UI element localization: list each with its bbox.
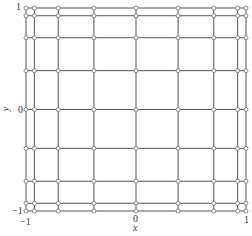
grid-node-marker [134,14,138,18]
grid-node-marker [244,6,248,10]
grid-node-marker [244,201,248,205]
grid-node-marker [236,6,240,10]
grid-node-marker [134,146,138,150]
grid-node-marker [24,14,28,18]
grid-node-marker [134,108,138,112]
grid-node-marker [176,179,180,183]
grid-node-marker [56,14,60,18]
grid-node-marker [24,146,28,150]
grid-node-marker [24,209,28,213]
grid-node-marker [244,146,248,150]
grid-node-marker [56,179,60,183]
grid-node-marker [244,36,248,40]
grid-node-marker [236,179,240,183]
grid-node-marker [212,6,216,10]
grid-node-marker [176,209,180,213]
grid-node-marker [212,146,216,150]
grid-node-marker [24,201,28,205]
grid-node-marker [92,209,96,213]
grid-node-marker [92,179,96,183]
grid-node-marker [32,209,36,213]
x-tick-label-right: 1 [244,215,249,225]
grid-node-marker [176,201,180,205]
y-tick-label-zero: 0 [18,105,23,115]
grid-node-marker [236,36,240,40]
grid-node-marker [176,69,180,73]
grid-node-marker [56,6,60,10]
grid-node-marker [24,108,28,112]
grid-node-marker [56,209,60,213]
x-tick-label-left: −1 [20,217,31,227]
grid-node-marker [212,201,216,205]
grid-node-marker [212,179,216,183]
grid-node-marker [212,209,216,213]
grid-node-marker [92,36,96,40]
grid-nodes [24,6,248,213]
grid-node-marker [176,108,180,112]
grid-node-marker [24,179,28,183]
grid-node-marker [92,108,96,112]
grid-node-marker [244,179,248,183]
grid-node-marker [236,69,240,73]
grid-node-marker [134,201,138,205]
grid-node-marker [32,201,36,205]
grid-node-marker [92,14,96,18]
grid-node-marker [212,108,216,112]
grid-node-marker [32,36,36,40]
grid-node-marker [24,6,28,10]
grid-node-marker [134,36,138,40]
grid-node-marker [56,108,60,112]
grid-node-marker [176,146,180,150]
grid-node-marker [176,36,180,40]
grid-node-marker [32,146,36,150]
grid-node-marker [244,14,248,18]
grid-node-marker [236,146,240,150]
grid-node-marker [56,69,60,73]
grid-plot [0,0,252,236]
x-axis-label: x [133,223,137,233]
grid-node-marker [134,6,138,10]
grid-node-marker [56,36,60,40]
grid-node-marker [56,146,60,150]
grid-node-marker [32,108,36,112]
grid-node-marker [32,179,36,183]
y-axis-label: y [1,107,11,111]
grid-node-marker [92,146,96,150]
grid-node-marker [92,6,96,10]
grid-node-marker [236,14,240,18]
grid-node-marker [212,36,216,40]
grid-node-marker [32,69,36,73]
grid-node-marker [244,209,248,213]
grid-node-marker [176,6,180,10]
grid-node-marker [236,201,240,205]
grid-node-marker [236,108,240,112]
grid-node-marker [134,179,138,183]
y-tick-label-top: 1 [16,2,21,12]
grid-node-marker [244,108,248,112]
grid-node-marker [32,6,36,10]
grid-node-marker [244,69,248,73]
grid-node-marker [24,36,28,40]
grid-node-marker [134,69,138,73]
grid-node-marker [32,14,36,18]
grid-node-marker [236,209,240,213]
grid-node-marker [212,14,216,18]
grid-node-marker [56,201,60,205]
grid-node-marker [24,69,28,73]
grid-node-marker [92,69,96,73]
y-tick-label-bottom: −1 [12,206,23,216]
grid-node-marker [176,14,180,18]
grid-node-marker [92,201,96,205]
grid-node-marker [212,69,216,73]
